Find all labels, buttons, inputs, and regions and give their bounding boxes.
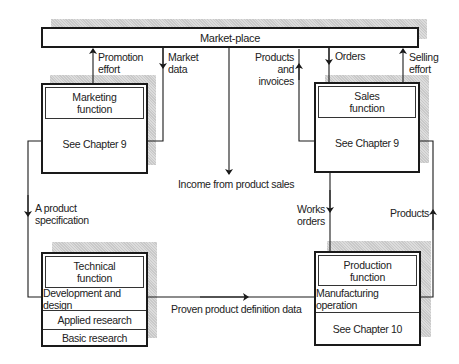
product-spec-label: A product specification bbox=[35, 202, 89, 226]
orders-label: Orders bbox=[335, 50, 365, 62]
marketing-title-line2: function bbox=[77, 103, 112, 115]
production-title: Production function bbox=[318, 255, 417, 286]
works-orders-label: Works orders bbox=[297, 203, 325, 227]
sales-function-box: Sales function See Chapter 9 bbox=[314, 82, 420, 173]
technical-title-line1: Technical bbox=[74, 260, 116, 272]
marketing-title: Marketing function bbox=[45, 87, 144, 119]
product-spec-line2: specification bbox=[35, 214, 89, 226]
market-data-line1: Market bbox=[168, 51, 198, 63]
development-design-row: Development and design bbox=[43, 288, 146, 310]
works-orders-line1: Works bbox=[297, 203, 325, 215]
production-chapter-row: See Chapter 10 bbox=[316, 312, 419, 345]
market-data-label: Market data bbox=[168, 51, 198, 75]
proven-data-line1: Proven product definition data bbox=[171, 303, 302, 315]
promotion-effort-line2: effort bbox=[98, 63, 143, 75]
marketing-function-box: Marketing function See Chapter 9 bbox=[41, 83, 148, 174]
technical-function-box: Technical function Development and desig… bbox=[41, 252, 148, 347]
selling-effort-line2: effort bbox=[409, 63, 438, 75]
income-label: Income from product sales bbox=[178, 178, 294, 190]
technical-title-line2: function bbox=[77, 272, 112, 284]
sales-title-line2: function bbox=[349, 102, 384, 114]
applied-research-row: Applied research bbox=[43, 310, 146, 329]
marketplace-bar: Market-place bbox=[41, 27, 419, 48]
products-label: Products bbox=[390, 207, 429, 219]
marketing-title-line1: Marketing bbox=[72, 91, 116, 103]
products-invoices-line2: and bbox=[250, 63, 294, 75]
products-line1: Products bbox=[390, 207, 429, 219]
sales-title-line1: Sales bbox=[354, 90, 379, 102]
selling-effort-line1: Selling bbox=[409, 51, 438, 63]
promotion-effort-label: Promotion effort bbox=[98, 51, 143, 75]
works-orders-line2: orders bbox=[297, 215, 325, 227]
orders-line1: Orders bbox=[335, 50, 365, 62]
basic-research-row: Basic research bbox=[43, 329, 146, 346]
proven-data-label: Proven product definition data bbox=[171, 303, 302, 315]
product-spec-line1: A product bbox=[35, 202, 89, 214]
production-function-box: Production function Manufacturing operat… bbox=[314, 251, 421, 346]
products-invoices-label: Products and invoices bbox=[250, 51, 294, 87]
production-title-line2: function bbox=[350, 271, 385, 283]
products-invoices-line1: Products bbox=[250, 51, 294, 63]
marketplace-label: Market-place bbox=[200, 32, 260, 44]
income-line1: Income from product sales bbox=[178, 178, 294, 190]
sales-body: See Chapter 9 bbox=[316, 120, 418, 166]
promotion-effort-line1: Promotion bbox=[98, 51, 143, 63]
market-data-line2: data bbox=[168, 63, 198, 75]
marketing-body: See Chapter 9 bbox=[43, 121, 146, 167]
selling-effort-label: Selling effort bbox=[409, 51, 438, 75]
manufacturing-operation-row: Manufacturing operation bbox=[316, 286, 419, 312]
products-invoices-line3: invoices bbox=[250, 75, 294, 87]
production-title-line1: Production bbox=[343, 259, 391, 271]
technical-title: Technical function bbox=[45, 256, 144, 288]
sales-title: Sales function bbox=[318, 86, 416, 118]
